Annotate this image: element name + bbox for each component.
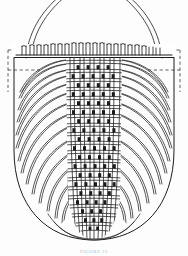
figure-caption: FIGURE 12	[0, 248, 188, 256]
rim	[12, 42, 176, 57]
basket-line-drawing	[0, 0, 188, 256]
figure-canvas: FIGURE 12	[0, 0, 188, 256]
weave-panel	[62, 56, 126, 242]
